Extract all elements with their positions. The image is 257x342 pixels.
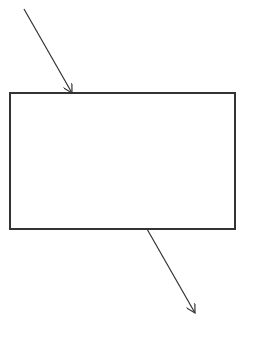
diagram-canvas [0, 0, 257, 342]
incoming-arrow [24, 9, 72, 93]
process-box [10, 93, 235, 229]
outgoing-arrow [147, 229, 195, 313]
